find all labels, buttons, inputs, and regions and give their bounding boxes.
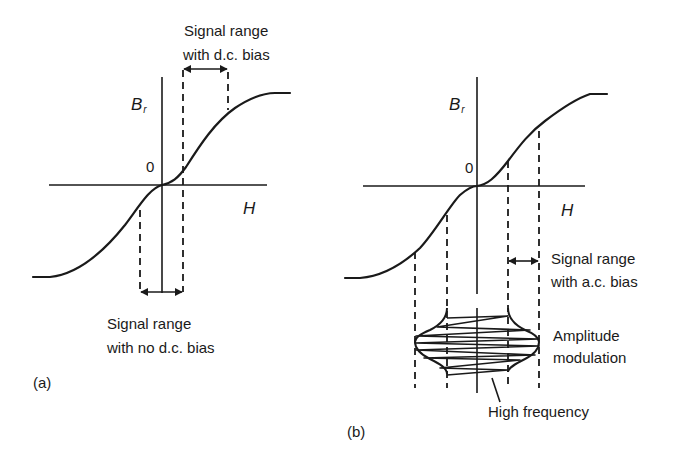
panel-b-y-axis-label: Br (449, 95, 465, 115)
panel-b-high-frequency-label: High frequency (488, 403, 589, 420)
panel-b-ac-bias-label-line1: Signal range (551, 250, 635, 267)
panel-b-high-frequency-leader (492, 378, 500, 402)
panel-a-x-axis-label: H (243, 199, 256, 218)
panel-b-x-axis-label: H (561, 201, 574, 220)
figure: Br 0 H Signal range with d.c. bias Signa… (0, 0, 680, 460)
panel-b-caption: (b) (347, 423, 365, 440)
panel-a: Br 0 H Signal range with d.c. bias Signa… (33, 22, 290, 391)
panel-a-dc-bias-label-line2: with d.c. bias (182, 46, 270, 63)
panel-b-amplitude-modulation-line2: modulation (553, 349, 626, 366)
panel-b: Br 0 H Signal range with a.c. bias Ampli… (345, 77, 638, 440)
panel-a-caption: (a) (33, 374, 51, 391)
panel-a-y-axis-label: Br (131, 95, 147, 115)
panel-a-nobias-label-line1: Signal range (107, 315, 191, 332)
panel-b-origin-label: 0 (465, 159, 473, 176)
panel-b-amplitude-modulation-line1: Amplitude (553, 327, 620, 344)
panel-a-origin-label: 0 (146, 158, 154, 175)
panel-a-dc-bias-label-line1: Signal range (184, 22, 268, 39)
panel-b-envelope-left (415, 308, 447, 374)
panel-a-nobias-label-line2: with no d.c. bias (106, 339, 215, 356)
panel-b-ac-bias-label-line2: with a.c. bias (550, 273, 638, 290)
